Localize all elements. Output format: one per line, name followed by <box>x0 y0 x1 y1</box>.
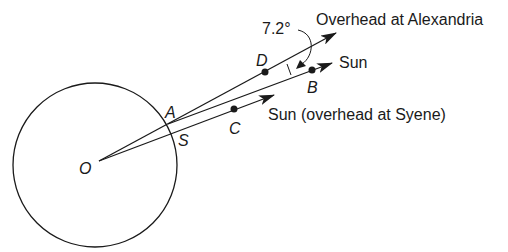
caption-sun: Sun <box>339 54 367 71</box>
label-c: C <box>229 120 241 137</box>
label-s: S <box>178 132 189 149</box>
label-a: A <box>164 104 176 121</box>
ray-sun-syene <box>99 95 274 161</box>
angle-tick <box>287 64 291 75</box>
ray-overhead-alexandria <box>99 33 336 161</box>
point-c-dot <box>231 106 238 113</box>
caption-sun-syene: Sun (overhead at Syene) <box>268 106 446 123</box>
point-d-dot <box>262 69 269 76</box>
label-b: B <box>307 79 318 96</box>
point-b-dot <box>309 67 316 74</box>
eratosthenes-diagram: O A S C D B 7.2° Overhead at Alexandria … <box>0 0 508 252</box>
label-d: D <box>256 52 268 69</box>
caption-overhead-alexandria: Overhead at Alexandria <box>316 11 483 28</box>
angle-label: 7.2° <box>262 20 291 37</box>
earth-circle <box>13 83 177 247</box>
label-o: O <box>79 160 91 177</box>
